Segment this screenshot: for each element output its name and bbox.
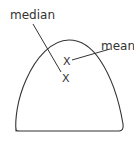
median-x-mark: X: [62, 72, 70, 85]
mean-leader-line: [72, 49, 110, 60]
mean-label: mean: [101, 39, 134, 53]
mean-x-mark: X: [63, 55, 71, 68]
skewed-distribution-diagram: median mean X X: [0, 0, 134, 141]
median-label: median: [10, 8, 55, 22]
median-leader-line: [33, 24, 61, 72]
distribution-curve: [16, 40, 123, 131]
